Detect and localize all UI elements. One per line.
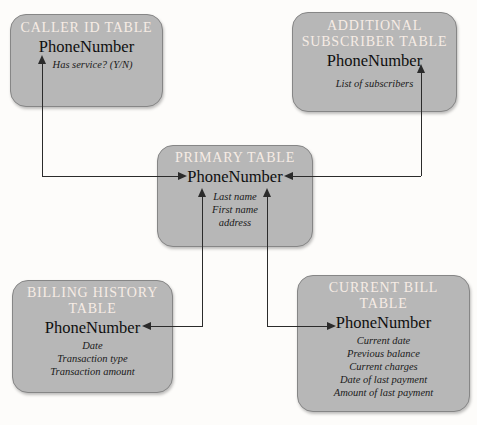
table-title: PRIMARY TABLE xyxy=(158,150,312,166)
table-attributes: List of subscribers xyxy=(293,77,456,90)
connector-line xyxy=(151,326,203,327)
table-attributes: Date Transaction type Transaction amount xyxy=(13,339,172,378)
arrowhead-left-icon xyxy=(142,322,151,330)
database-tables-diagram: CALLER ID TABLE PhoneNumber Has service?… xyxy=(0,0,477,425)
connector-line xyxy=(421,72,422,176)
connector-line xyxy=(42,63,43,176)
table-title: ADDITIONAL SUBSCRIBER TABLE xyxy=(293,18,456,50)
table-additional-subscriber: ADDITIONAL SUBSCRIBER TABLE PhoneNumber … xyxy=(292,12,457,112)
table-current-bill: CURRENT BILL TABLE PhoneNumber Current d… xyxy=(297,275,470,412)
table-key-field: PhoneNumber xyxy=(293,51,456,70)
table-title: CURRENT BILL TABLE xyxy=(298,280,469,312)
table-primary: PRIMARY TABLE PhoneNumber Last name Firs… xyxy=(157,145,313,247)
connector-line xyxy=(293,176,421,177)
connector-line xyxy=(42,176,178,177)
table-title: CALLER ID TABLE xyxy=(11,20,162,36)
connector-line xyxy=(267,196,268,326)
table-attributes: Last name First name address xyxy=(158,190,312,229)
table-key-field: PhoneNumber xyxy=(11,37,162,56)
arrowhead-right-icon xyxy=(178,172,187,180)
connector-line xyxy=(267,326,327,327)
table-attributes: Current date Previous balance Current ch… xyxy=(298,334,469,399)
table-caller-id: CALLER ID TABLE PhoneNumber Has service?… xyxy=(10,14,163,107)
connector-line xyxy=(202,196,203,326)
arrowhead-left-icon xyxy=(284,172,293,180)
table-title: BILLING HISTORY TABLE xyxy=(13,285,172,317)
table-key-field: PhoneNumber xyxy=(298,313,469,332)
arrowhead-right-icon xyxy=(327,322,336,330)
table-billing-history: BILLING HISTORY TABLE PhoneNumber Date T… xyxy=(12,280,173,393)
